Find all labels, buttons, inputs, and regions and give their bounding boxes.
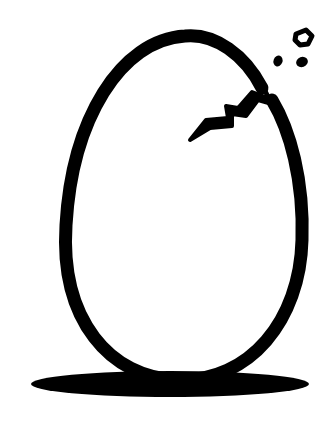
egg-outline (66, 36, 303, 380)
cracked-egg-illustration (0, 0, 331, 423)
shell-dot (295, 55, 310, 69)
shell-fragment (295, 30, 312, 45)
shell-dot (272, 54, 284, 67)
illustration-canvas: Cracked egg (0, 0, 331, 423)
